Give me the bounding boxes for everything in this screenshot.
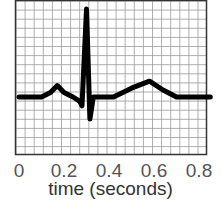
grid-lines	[16, 1, 206, 155]
ecg-chart	[0, 0, 221, 160]
plot-frame	[16, 1, 207, 155]
x-axis-label: time (seconds)	[0, 178, 221, 200]
ecg-trace	[19, 9, 210, 119]
